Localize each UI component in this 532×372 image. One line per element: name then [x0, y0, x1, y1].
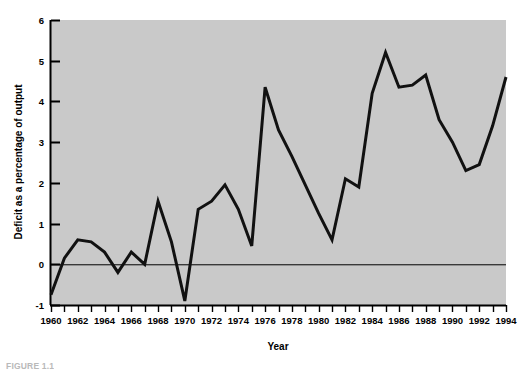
- y-axis-tick-label: 1: [39, 219, 45, 230]
- x-axis-tick-label: 1980: [308, 315, 329, 326]
- y-axis-tick-label: 6: [39, 15, 44, 26]
- x-axis-tick-label: 1960: [40, 315, 61, 326]
- x-axis-tick-label: 1964: [94, 315, 116, 326]
- x-axis-tick-labels: 1960196219641966196819701972197419761978…: [40, 315, 517, 326]
- y-axis-tick-label: 2: [39, 178, 44, 189]
- x-axis-tick-label: 1994: [495, 315, 517, 326]
- x-axis-tick-label: 1962: [67, 315, 88, 326]
- x-axis-tick-label: 1992: [469, 315, 490, 326]
- y-axis-tick-label: 5: [39, 56, 45, 67]
- x-axis-tick-label: 1978: [281, 315, 302, 326]
- figure-container: -10123456 196019621964196619681970197219…: [0, 0, 532, 372]
- x-axis-tick-label: 1976: [255, 315, 276, 326]
- y-axis-tick-label: -1: [36, 300, 45, 311]
- figure-caption: FIGURE 1.1: [6, 361, 54, 372]
- x-axis-tick-label: 1972: [201, 315, 222, 326]
- x-axis-tick-label: 1984: [362, 315, 384, 326]
- x-axis-tick-label: 1968: [147, 315, 168, 326]
- x-axis-tick-label: 1990: [442, 315, 463, 326]
- y-axis-tick-labels: -10123456: [36, 15, 45, 311]
- x-axis-tick-label: 1986: [388, 315, 409, 326]
- x-axis-tick-label: 1974: [228, 315, 250, 326]
- y-axis-tick-label: 0: [39, 259, 44, 270]
- y-axis-tick-label: 3: [39, 137, 44, 148]
- plot-area-background: [50, 20, 506, 305]
- x-axis-tick-label: 1982: [335, 315, 356, 326]
- x-axis-title: Year: [267, 341, 288, 352]
- deficit-line-chart: -10123456 196019621964196619681970197219…: [0, 0, 532, 372]
- x-axis-tick-label: 1970: [174, 315, 195, 326]
- x-axis-tick-label: 1966: [121, 315, 142, 326]
- y-axis-title: Deficit as a percentage of output: [13, 84, 24, 240]
- x-axis-tick-label: 1988: [415, 315, 436, 326]
- y-axis-tick-label: 4: [39, 96, 45, 107]
